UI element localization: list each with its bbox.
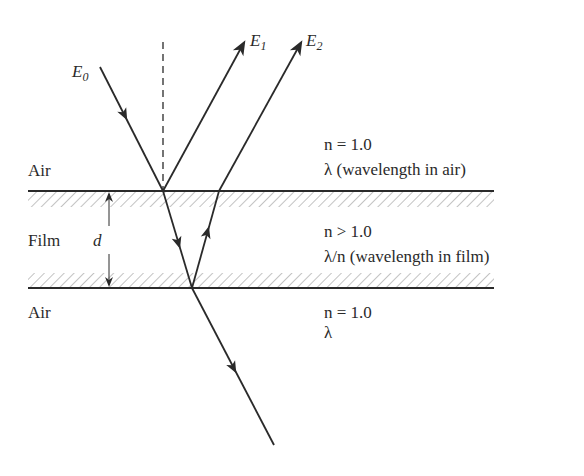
label-e2: E2 [305, 31, 322, 53]
arrowhead-down-icon [226, 360, 240, 375]
bottom-index: n = 1.0 [324, 303, 372, 322]
arrowhead-down-icon [117, 107, 131, 122]
label-e1: E1 [249, 31, 266, 53]
top-wavelength: λ (wavelength in air) [324, 160, 466, 179]
arrowhead-down-icon [172, 236, 185, 250]
region-top-name: Air [28, 161, 51, 180]
incident-ray [100, 67, 163, 191]
reflected-ray-e2 [219, 37, 308, 191]
label-e0: E0 [71, 62, 88, 84]
region-film-name: Film [28, 231, 60, 250]
arrowhead-up-icon [290, 37, 308, 56]
bottom-hatch-band [28, 273, 494, 288]
bottom-wavelength: λ [324, 323, 333, 342]
film-wavelength: λ/n (wavelength in film) [324, 247, 489, 266]
film-index: n > 1.0 [324, 222, 372, 241]
arrowhead-up-icon [233, 37, 251, 56]
thickness-label: d [93, 231, 102, 250]
top-hatch-band [28, 192, 494, 207]
top-index: n = 1.0 [324, 135, 372, 154]
region-bottom-name: Air [28, 303, 51, 322]
arrowhead-up-icon [201, 225, 214, 239]
thin-film-diagram: E0 E1 E2 Air Film Air d n = 1.0 λ (wavel… [0, 0, 584, 476]
reflected-ray-e1 [163, 37, 251, 191]
transmitted-ray [192, 288, 274, 445]
